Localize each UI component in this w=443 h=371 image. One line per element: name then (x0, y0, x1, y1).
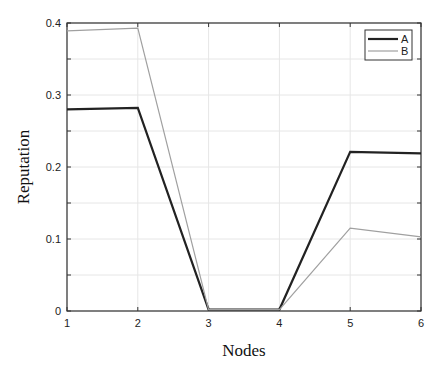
series-line-a (67, 108, 421, 310)
x-tick-label: 1 (64, 317, 70, 329)
x-tick-label: 4 (276, 317, 282, 329)
y-tick-label: 0.4 (46, 17, 61, 29)
y-tick-label: 0.2 (46, 161, 61, 173)
x-tick-label: 5 (347, 317, 353, 329)
legend-label-a: A (401, 33, 409, 45)
x-tick-label: 3 (206, 317, 212, 329)
y-tick-label: 0 (55, 305, 61, 317)
x-tick-label: 2 (135, 317, 141, 329)
series-line-b (67, 28, 421, 310)
y-tick-label: 0.1 (46, 233, 61, 245)
y-axis-label: Reputation (14, 129, 33, 204)
x-axis-label: Nodes (222, 341, 265, 360)
legend-label-b: B (401, 45, 408, 57)
x-tick-label: 6 (418, 317, 424, 329)
chart-figure: 12345600.10.20.30.4NodesReputationAB (0, 0, 443, 371)
line-chart: 12345600.10.20.30.4NodesReputationAB (0, 0, 443, 371)
y-tick-label: 0.3 (46, 89, 61, 101)
